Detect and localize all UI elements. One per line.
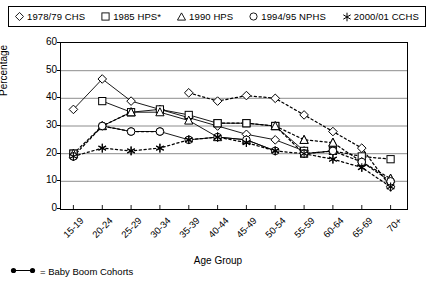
square-marker-icon (101, 12, 110, 21)
x-tick-40-44: 40-44 (205, 215, 230, 240)
star-marker-icon (342, 12, 351, 21)
legend-label-3: 1994/95 NPHS (261, 12, 326, 22)
x-tick-55-59: 55-59 (292, 215, 317, 240)
x-tick-35-39: 35-39 (177, 215, 202, 240)
x-tick-20-24: 20-24 (90, 215, 115, 240)
diamond-marker-icon (15, 12, 24, 21)
x-axis-title: Age Group (0, 255, 436, 266)
circle-marker-icon (249, 12, 258, 21)
chart-page: 1978/79 CHS 1985 HPS* 1990 HPS 1994/95 N… (0, 0, 436, 286)
x-tick-15-19: 15-19 (61, 215, 86, 240)
x-tick-30-34: 30-34 (148, 215, 173, 240)
legend-label-2: 1990 HPS (189, 12, 233, 22)
baby-boom-line-icon (10, 266, 36, 277)
y-tick-20: 20 (35, 148, 57, 158)
footnote: = Baby Boom Cohorts (10, 266, 133, 277)
y-tick-30: 30 (35, 120, 57, 130)
plot-area (60, 42, 408, 210)
legend-item-3: 1994/95 NPHS (249, 12, 326, 22)
x-tick-25-29: 25-29 (119, 215, 144, 240)
legend-label-1: 1985 HPS* (113, 12, 161, 22)
legend-label-4: 2000/01 CCHS (354, 12, 419, 22)
legend-item-4: 2000/01 CCHS (342, 12, 419, 22)
x-tick-65-69: 65-69 (350, 215, 375, 240)
x-tick-45-49: 45-49 (234, 215, 259, 240)
y-axis-tick-labels: 0102030405060 (33, 0, 57, 212)
y-tick-50: 50 (35, 65, 57, 75)
y-tick-60: 60 (35, 37, 57, 47)
x-tick-60-64: 60-64 (321, 215, 346, 240)
y-axis-title: Percentage (0, 45, 9, 96)
y-tick-40: 40 (35, 92, 57, 102)
x-tick-50-54: 50-54 (263, 215, 288, 240)
legend-item-2: 1990 HPS (177, 12, 233, 22)
chart-canvas (61, 43, 407, 209)
legend-item-1: 1985 HPS* (101, 12, 161, 22)
y-tick-10: 10 (35, 175, 57, 185)
x-tick-70+: 70+ (384, 215, 403, 234)
chart-legend: 1978/79 CHS 1985 HPS* 1990 HPS 1994/95 N… (8, 6, 426, 27)
footnote-text: = Baby Boom Cohorts (40, 266, 133, 277)
triangle-marker-icon (177, 12, 186, 21)
